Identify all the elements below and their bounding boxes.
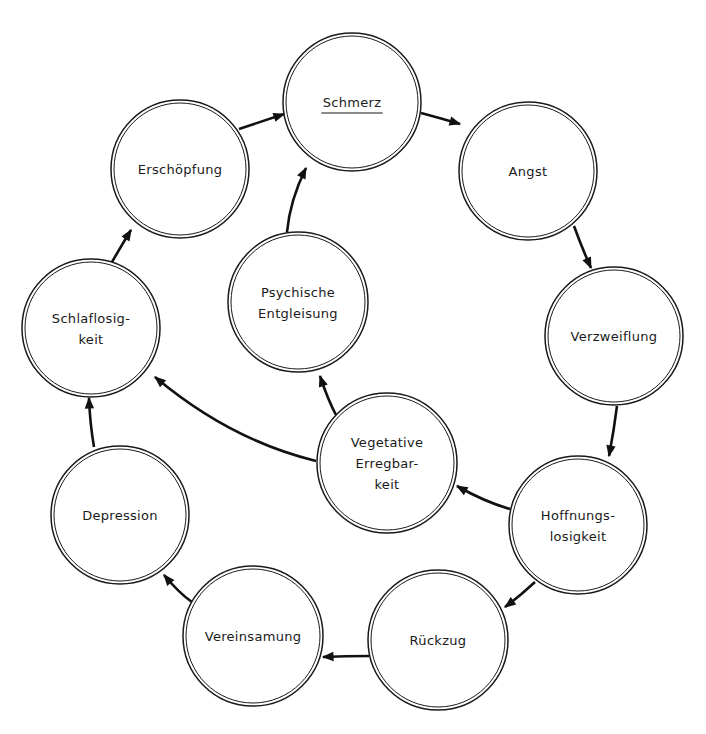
node-circle-outer (509, 456, 647, 594)
node-label: Vereinsamung (205, 629, 302, 644)
node-label: keit (79, 332, 104, 347)
arrow-hoffnungslosigkeit-to-rueckzug (505, 582, 535, 607)
node-erschoepfung: Erschöpfung (111, 100, 249, 238)
node-schmerz: Schmerz (283, 33, 421, 171)
vicious-cycle-diagram: SchmerzAngstVerzweiflungHoffnungs-losigk… (0, 0, 706, 734)
node-rueckzug: Rückzug (368, 570, 508, 710)
node-hoffnungslosigkeit: Hoffnungs-losigkeit (509, 456, 647, 594)
arrow-erschoepfung-to-schmerz (239, 114, 284, 129)
node-label: Schmerz (323, 95, 382, 110)
node-angst: Angst (459, 102, 597, 240)
arrow-depression-to-schlaflosigkeit (89, 398, 94, 447)
node-label: Vegetative (351, 435, 424, 450)
node-depression: Depression (51, 446, 189, 584)
arrow-schlaflosigkeit-to-erschoepfung (112, 230, 131, 262)
node-circle-outer (228, 232, 368, 372)
node-schlaflosigkeit: Schlaflosig-keit (22, 259, 160, 397)
nodes-layer: SchmerzAngstVerzweiflungHoffnungs-losigk… (22, 33, 683, 710)
node-label: Schlaflosig- (52, 311, 130, 326)
node-psychische: PsychischeEntgleisung (228, 232, 368, 372)
node-label: Angst (509, 164, 548, 179)
node-vereinsamung: Vereinsamung (183, 566, 323, 706)
node-circle-outer (22, 259, 160, 397)
arrow-angst-to-verzweiflung (574, 226, 591, 268)
arrow-rueckzug-to-vereinsamung (323, 656, 369, 657)
arrow-schmerz-to-angst (421, 113, 460, 124)
node-label: keit (375, 477, 400, 492)
arrow-psychische-to-schmerz (287, 168, 306, 232)
node-verzweiflung: Verzweiflung (545, 267, 683, 405)
node-label: Depression (82, 508, 158, 523)
node-label: losigkeit (550, 529, 607, 544)
node-label: Entgleisung (258, 306, 338, 321)
arrow-verzweiflung-to-hoffnungslosigkeit (609, 406, 617, 456)
arrow-hoffnungslosigkeit-to-vegetative (457, 486, 510, 509)
node-label: Hoffnungs- (541, 508, 615, 523)
node-label: Erregbar- (356, 456, 419, 471)
arrow-vegetative-to-psychische (320, 376, 336, 415)
node-label: Psychische (261, 285, 335, 300)
node-vegetative: VegetativeErregbar-keit (317, 393, 457, 533)
arrow-vegetative-to-schlaflosigkeit (155, 377, 316, 461)
node-label: Rückzug (410, 633, 467, 648)
node-label: Verzweiflung (571, 329, 658, 344)
arrow-vereinsamung-to-depression (164, 575, 192, 602)
node-label: Erschöpfung (138, 162, 223, 177)
